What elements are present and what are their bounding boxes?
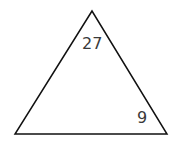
bottom-right-angle-label: 9	[137, 110, 147, 126]
top-angle-label: 27	[82, 36, 102, 52]
triangle-figure	[0, 0, 178, 144]
